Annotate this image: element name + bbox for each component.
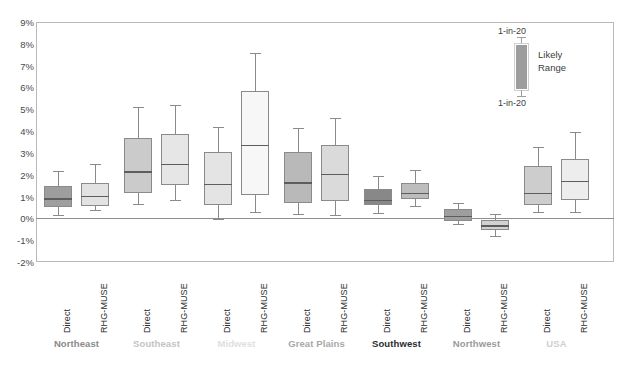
median-line: [401, 193, 429, 195]
whisker-upper: [138, 107, 139, 138]
whisker-cap-upper: [533, 147, 544, 148]
whisker-cap-lower: [330, 215, 341, 216]
x-axis-series-label: Direct: [302, 309, 312, 333]
whisker-lower: [218, 205, 219, 220]
median-line: [204, 184, 232, 186]
whisker-cap-upper: [453, 203, 464, 204]
whisker-cap-upper: [133, 107, 144, 108]
x-axis-series-label: Direct: [222, 309, 232, 333]
median-line: [81, 196, 109, 198]
whisker-cap-upper: [170, 105, 181, 106]
box-iqr: [524, 166, 552, 204]
box-iqr: [44, 186, 72, 208]
whisker-cap-upper: [330, 118, 341, 119]
whisker-cap-lower: [570, 212, 581, 213]
whisker-upper: [175, 105, 176, 134]
y-axis-tick-label: 3%: [0, 148, 34, 157]
whisker-cap-upper: [570, 132, 581, 133]
whisker-cap-upper: [410, 170, 421, 171]
whisker-cap-lower: [533, 212, 544, 213]
y-axis-tick-label: 8%: [0, 39, 34, 48]
box-iqr: [161, 134, 189, 184]
whisker-upper: [335, 118, 336, 145]
whisker-upper: [378, 176, 379, 189]
y-axis-tick-label: 1%: [0, 192, 34, 201]
median-line: [481, 225, 509, 227]
x-axis-series-label: RHG-MUSE: [579, 283, 589, 333]
whisker-cap-lower: [293, 214, 304, 215]
x-axis-group-label-usa: USA: [510, 338, 603, 349]
boxplot-chart: 9%8%7%6%5%4%3%2%1%0%-1%-2% 1-in-20 Likel…: [0, 0, 618, 367]
y-axis: 9%8%7%6%5%4%3%2%1%0%-1%-2%: [0, 0, 34, 367]
whisker-cap-lower: [373, 213, 384, 214]
whisker-cap-upper: [90, 164, 101, 165]
y-axis-tick-label: 0%: [0, 214, 34, 223]
whisker-lower: [538, 205, 539, 212]
whisker-cap-lower: [453, 224, 464, 225]
whisker-cap-upper: [373, 176, 384, 177]
median-line: [561, 181, 589, 183]
whisker-cap-upper: [53, 171, 64, 172]
y-axis-tick-label: -2%: [0, 258, 34, 267]
whisker-lower: [138, 193, 139, 205]
median-line: [124, 171, 152, 173]
median-line: [444, 216, 472, 218]
x-axis-series-label: Direct: [382, 309, 392, 333]
whisker-cap-lower: [490, 236, 501, 237]
box-iqr: [241, 91, 269, 195]
box-iqr: [81, 183, 109, 206]
whisker-lower: [335, 201, 336, 215]
whisker-lower: [58, 207, 59, 215]
y-axis-tick-label: 5%: [0, 105, 34, 114]
whisker-lower: [255, 195, 256, 212]
y-axis-tick-label: 4%: [0, 127, 34, 136]
x-axis-series-label: RHG-MUSE: [499, 283, 509, 333]
whisker-upper: [538, 147, 539, 166]
whisker-cap-upper: [490, 214, 501, 215]
y-axis-tick-label: 7%: [0, 61, 34, 70]
y-axis-tick-label: -1%: [0, 236, 34, 245]
x-axis-series-label: RHG-MUSE: [339, 283, 349, 333]
whisker-upper: [218, 127, 219, 152]
y-axis-tick-label: 6%: [0, 83, 34, 92]
whisker-lower: [415, 199, 416, 207]
whisker-cap-lower: [90, 210, 101, 211]
median-line: [284, 182, 312, 184]
x-axis-series-label: Direct: [462, 309, 472, 333]
whisker-cap-upper: [213, 127, 224, 128]
whisker-upper: [95, 164, 96, 183]
median-line: [321, 174, 349, 176]
x-axis-series-label: RHG-MUSE: [179, 283, 189, 333]
whisker-upper: [255, 53, 256, 92]
median-line: [161, 164, 189, 166]
median-line: [241, 145, 269, 147]
y-axis-tick-label: 9%: [0, 18, 34, 27]
whisker-cap-upper: [250, 53, 261, 54]
whisker-cap-lower: [170, 200, 181, 201]
whisker-lower: [378, 205, 379, 213]
median-line: [524, 193, 552, 195]
x-axis-series-label: RHG-MUSE: [99, 283, 109, 333]
whisker-lower: [175, 185, 176, 201]
box-iqr: [364, 189, 392, 205]
whisker-upper: [298, 128, 299, 151]
whisker-cap-lower: [213, 219, 224, 220]
x-axis-series-label: RHG-MUSE: [419, 283, 429, 333]
whisker-cap-lower: [53, 215, 64, 216]
whisker-lower: [298, 203, 299, 215]
box-iqr: [124, 138, 152, 193]
x-axis-series-label: Direct: [142, 309, 152, 333]
whisker-lower: [575, 200, 576, 211]
whisker-cap-lower: [410, 206, 421, 207]
box-iqr: [401, 183, 429, 199]
whisker-upper: [58, 171, 59, 185]
box-iqr: [284, 152, 312, 203]
whisker-cap-lower: [250, 212, 261, 213]
y-axis-tick-label: 2%: [0, 170, 34, 179]
median-line: [44, 198, 72, 200]
whisker-upper: [575, 132, 576, 159]
box-iqr: [204, 152, 232, 205]
whisker-upper: [415, 170, 416, 183]
median-line: [364, 200, 392, 202]
x-axis-series-label: RHG-MUSE: [259, 283, 269, 333]
